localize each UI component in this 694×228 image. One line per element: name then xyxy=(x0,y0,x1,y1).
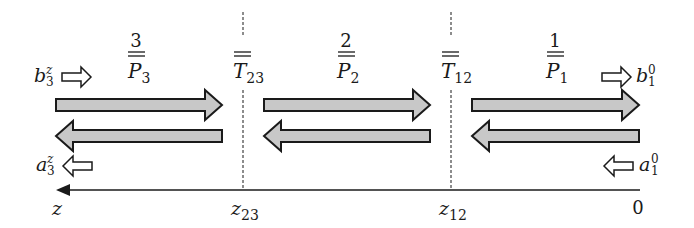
multilayer-transfer-diagram: 3 2 1 P3 P2 P1 T23 T12 bz3 b01 az3 a01 z xyxy=(0,0,694,228)
matrix-p1: P1 xyxy=(545,59,568,86)
matrix-bars xyxy=(128,52,564,56)
axis-label-z12: z12 xyxy=(438,197,467,223)
section-1-index: 1 xyxy=(549,30,560,51)
label-a10: a01 xyxy=(639,152,659,178)
axis-label-z23: z23 xyxy=(230,197,259,223)
backward-arrow-section-1 xyxy=(472,121,639,151)
backward-arrow-section-2 xyxy=(264,121,430,151)
b3-wave-arrow-icon xyxy=(62,67,91,87)
forward-arrow-section-2 xyxy=(264,90,430,120)
label-b3z: bz3 xyxy=(34,63,54,89)
a3-wave-arrow-icon xyxy=(63,156,92,176)
axis-label-origin: 0 xyxy=(632,197,643,218)
z-axis-arrowhead-icon xyxy=(56,184,70,196)
matrix-t23: T23 xyxy=(233,59,264,86)
b1-wave-arrow-icon xyxy=(602,67,631,87)
forward-arrow-section-3 xyxy=(56,90,222,120)
matrix-t12: T12 xyxy=(441,59,472,86)
matrix-p2: P2 xyxy=(336,59,359,86)
section-3-index: 3 xyxy=(130,30,141,51)
axis-label-z: z xyxy=(51,197,63,219)
section-2-index: 2 xyxy=(340,30,351,51)
a1-wave-arrow-icon xyxy=(604,156,633,176)
forward-arrow-section-1 xyxy=(472,90,639,120)
label-a3z: az3 xyxy=(36,152,55,178)
matrix-p3: P3 xyxy=(127,59,150,86)
label-b10: b01 xyxy=(636,63,656,89)
backward-arrow-section-3 xyxy=(56,121,222,151)
